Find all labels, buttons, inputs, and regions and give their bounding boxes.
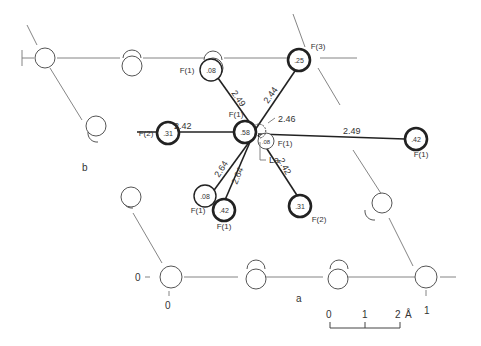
svg-text:F(1): F(1)	[217, 222, 232, 231]
svg-text:F(1): F(1)	[180, 66, 195, 75]
corner-atom-top-left	[35, 48, 55, 68]
svg-text:F(2): F(2)	[139, 129, 154, 138]
svg-text:Å: Å	[405, 308, 412, 320]
a-end-label: 1	[424, 305, 430, 316]
fluorine-f1-center: .58 F(1)	[229, 110, 256, 143]
bond-length-label: 2.46	[278, 114, 296, 124]
origin-x-label: 0	[135, 272, 141, 283]
svg-text:F(1): F(1)	[278, 139, 293, 148]
crystal-structure-diagram: .08 F(1) .25 F(3) .31 F(2) .58 F(1) .08 …	[0, 0, 481, 346]
fluorine-f1-bottom-mid: .42 F(1)	[213, 199, 235, 231]
svg-text:F(1): F(1)	[414, 150, 429, 159]
fluorine-f2-left: .31 F(2)	[139, 122, 179, 144]
svg-text:F(1): F(1)	[191, 206, 206, 215]
unit-cell-outline	[27, 14, 456, 277]
axis-b-label: b	[82, 162, 88, 173]
svg-text:.42: .42	[411, 136, 421, 143]
svg-text:2: 2	[395, 309, 401, 320]
svg-text:.31: .31	[295, 203, 305, 210]
svg-text:F(3): F(3)	[311, 42, 326, 51]
bond-length-label: 2.44	[261, 85, 279, 105]
svg-text:1: 1	[362, 309, 368, 320]
svg-text:.08: .08	[206, 67, 216, 74]
svg-text:.08: .08	[200, 193, 210, 200]
svg-text:F(2): F(2)	[312, 215, 327, 224]
svg-text:.08: .08	[262, 139, 271, 145]
fluorine-f3-top: .25 F(3)	[288, 42, 326, 71]
bond-length-label: 2.49	[343, 126, 361, 136]
bond-length-label: 2.42	[174, 121, 192, 131]
bond-length-label: 2.64	[230, 166, 246, 186]
corner-atom-a-end	[415, 266, 437, 288]
scale-bar: 0 1 2 Å	[326, 308, 412, 328]
axis-a-label: a	[296, 293, 302, 304]
bond-length-label: 2.64	[212, 159, 230, 179]
svg-text:0: 0	[326, 309, 332, 320]
origin-y-label: 0	[165, 300, 171, 311]
fluorine-f1-right: .42 F(1)	[405, 128, 429, 159]
corner-atom-origin	[160, 266, 182, 288]
svg-text:.31: .31	[163, 130, 173, 137]
fluorine-f1-top: .08 F(1)	[180, 59, 222, 81]
fluorine-f2-bottom-right: .31 F(2)	[289, 195, 327, 224]
svg-text:F(1): F(1)	[229, 110, 244, 119]
svg-text:.58: .58	[240, 129, 250, 136]
svg-text:.25: .25	[294, 57, 304, 64]
svg-text:.42: .42	[219, 207, 229, 214]
